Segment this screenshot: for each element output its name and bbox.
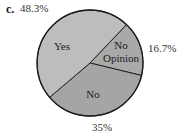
slice-label-no-opinion-line2: Opinion xyxy=(103,52,140,64)
slice-label-no: No xyxy=(86,88,100,100)
slice-label-no-opinion-line1: No xyxy=(114,39,128,51)
slice-label-yes: Yes xyxy=(54,40,70,52)
pie-chart: Yes No Opinion No xyxy=(0,0,179,135)
